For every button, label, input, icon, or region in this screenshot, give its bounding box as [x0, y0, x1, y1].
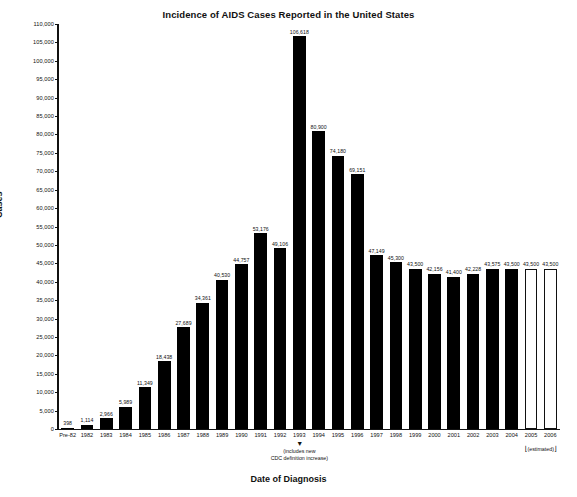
bar-value-label: 69,151	[349, 167, 365, 173]
plot-area: 3981,1142,9665,98911,34918,43827,68934,3…	[58, 24, 560, 429]
x-axis-tick-label: 1983	[97, 432, 116, 438]
bar-column: 42,156	[428, 24, 441, 429]
bar-column: 74,180	[332, 24, 345, 429]
annotation-line-1: (includes new	[283, 448, 315, 454]
y-axis-tick-mark	[55, 227, 58, 228]
y-axis-tick-label: 25,000	[36, 334, 54, 340]
y-axis-tick-label: 10,000	[36, 389, 54, 395]
y-axis-tick-label: 45,000	[36, 260, 54, 266]
bar-column: 2,966	[100, 24, 113, 429]
y-axis-tick-mark	[55, 337, 58, 338]
x-axis-tick-label: 2001	[444, 432, 463, 438]
bar-series: 3981,1142,9665,98911,34918,43827,68934,3…	[58, 24, 560, 429]
bar-value-label: 44,757	[233, 257, 249, 263]
y-axis-tick-label: 50,000	[36, 242, 54, 248]
bar-column: 5,989	[119, 24, 132, 429]
bar-value-label: 2,966	[100, 411, 113, 417]
y-axis-tick-label: 5,000	[40, 408, 55, 414]
bar-column: 41,400	[447, 24, 460, 429]
bar-column: 1,114	[81, 24, 94, 429]
bar-value-label: 41,400	[446, 269, 462, 275]
bar-column: 80,900	[312, 24, 325, 429]
y-axis-tick-label: 80,000	[36, 131, 54, 137]
bar-column: 47,149	[370, 24, 383, 429]
bar-column: 43,500	[505, 24, 518, 429]
y-axis-tick-mark	[55, 98, 58, 99]
y-axis-tick-label: 55,000	[36, 224, 54, 230]
bar-column: 43,575	[486, 24, 499, 429]
y-axis-tick-mark	[55, 374, 58, 375]
bar-value-label: 74,180	[330, 148, 346, 154]
y-axis-tick-mark	[55, 134, 58, 135]
bar	[390, 262, 403, 429]
x-axis-line	[57, 429, 560, 430]
x-axis-tick-label: 1992	[270, 432, 289, 438]
y-axis-tick-label: 20,000	[36, 352, 54, 358]
bar-value-label: 42,228	[465, 266, 481, 272]
bar-value-label: 18,438	[156, 354, 172, 360]
bar-value-label: 11,349	[137, 380, 153, 386]
y-axis-tick-mark	[55, 355, 58, 356]
bar	[332, 156, 345, 429]
x-axis-tick-label: 1997	[367, 432, 386, 438]
y-axis-tick-mark	[55, 61, 58, 62]
y-axis-tick-label: 60,000	[36, 205, 54, 211]
x-axis-tick-label: 1985	[135, 432, 154, 438]
bar-column: 53,176	[254, 24, 267, 429]
y-axis-tick-mark	[55, 282, 58, 283]
x-axis-tick-label: Pre-82	[58, 432, 77, 438]
bar-value-label: 43,500	[542, 261, 558, 267]
y-axis-tick-mark	[55, 24, 58, 25]
bar-value-label: 43,500	[407, 261, 423, 267]
y-axis-tick-label: 95,000	[36, 76, 54, 82]
bar-column: 106,618	[293, 24, 306, 429]
y-axis-tick-label: 85,000	[36, 113, 54, 119]
y-axis-tick-mark	[55, 208, 58, 209]
x-axis-tick-label: 1987	[174, 432, 193, 438]
bar-column: 43,500	[544, 24, 557, 429]
bar	[81, 425, 94, 429]
x-axis-tick-label: 1996	[348, 432, 367, 438]
y-axis-tick-mark	[55, 319, 58, 320]
bar	[158, 361, 171, 429]
annotation-text: (includes newCDC definition increase)	[229, 448, 369, 462]
bar	[525, 269, 538, 429]
bar	[409, 269, 422, 429]
x-axis-tick-label: 1990	[232, 432, 251, 438]
x-axis-tick-label: 1991	[251, 432, 270, 438]
bar	[139, 387, 152, 429]
y-axis-tick-mark	[55, 42, 58, 43]
bar	[293, 36, 306, 429]
bracket-right-icon: ⌋	[554, 445, 557, 452]
x-axis-tick-label: 1982	[77, 432, 96, 438]
bar-value-label: 53,176	[253, 226, 269, 232]
bar-column: 42,228	[467, 24, 480, 429]
bar	[447, 277, 460, 429]
bar	[274, 248, 287, 429]
bar-column: 27,689	[177, 24, 190, 429]
y-axis-tick-mark	[55, 300, 58, 301]
bar-column: 40,530	[216, 24, 229, 429]
x-axis-tick-label: 2002	[463, 432, 482, 438]
bar-value-label: 42,156	[426, 266, 442, 272]
y-axis-tick-mark	[55, 263, 58, 264]
y-axis-tick-label: 90,000	[36, 95, 54, 101]
bar-column: 49,106	[274, 24, 287, 429]
bar-value-label: 43,575	[484, 261, 500, 267]
bar-value-label: 47,149	[368, 248, 384, 254]
x-axis-tick-label: 1989	[212, 432, 231, 438]
bar	[467, 274, 480, 429]
bar-value-label: 80,900	[311, 124, 327, 130]
bar-value-label: 45,300	[388, 255, 404, 261]
y-axis-tick-mark	[55, 245, 58, 246]
annotation-line-2: CDC definition increase)	[271, 455, 328, 461]
bar	[100, 418, 113, 429]
x-axis-tick-labels: Pre-821982198319841985198619871988198919…	[58, 432, 560, 446]
x-axis-tick-label: 1999	[406, 432, 425, 438]
y-axis-tick-label: 35,000	[36, 297, 54, 303]
bar-value-label: 43,500	[504, 261, 520, 267]
bar	[119, 407, 132, 429]
x-axis-tick-label: 2000	[425, 432, 444, 438]
bar	[177, 327, 190, 429]
y-axis-tick-labels: 05,00010,00015,00020,00025,00030,00035,0…	[0, 24, 54, 430]
